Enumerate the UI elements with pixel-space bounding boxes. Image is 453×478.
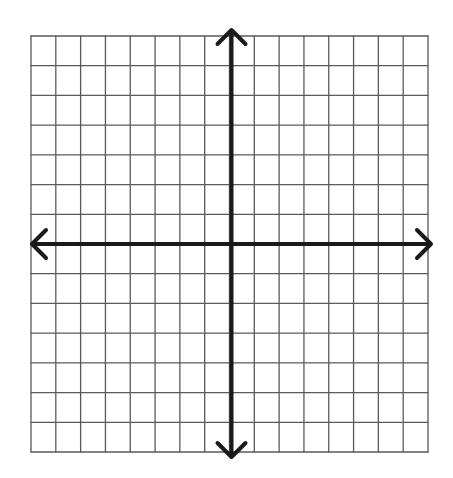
coordinate-plane <box>0 0 453 478</box>
